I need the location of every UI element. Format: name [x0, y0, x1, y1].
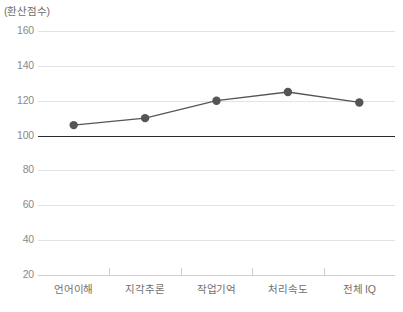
x-axis-line — [38, 275, 395, 276]
y-tick-label-60: 60 — [4, 199, 34, 210]
y-tick-label-140: 140 — [4, 60, 34, 71]
y-axis-unit-title: (환산점수) — [4, 3, 50, 18]
y-tick-label-80: 80 — [4, 164, 34, 175]
series-group — [38, 31, 395, 275]
data-point-3 — [284, 88, 292, 96]
data-point-1 — [141, 114, 149, 122]
x-category-label-1: 지각추론 — [125, 281, 164, 296]
y-tick-label-20: 20 — [4, 269, 34, 280]
x-category-label-4: 전체 IQ — [343, 281, 376, 296]
y-tick-label-120: 120 — [4, 95, 34, 106]
y-tick-label-100: 100 — [4, 130, 34, 141]
x-category-label-0: 언어이해 — [54, 281, 93, 296]
data-point-0 — [70, 121, 78, 129]
x-category-label-2: 작업기억 — [197, 281, 236, 296]
data-point-2 — [212, 97, 220, 105]
y-axis-tick-labels: 16014012010080604020 — [0, 31, 34, 275]
y-tick-label-160: 160 — [4, 25, 34, 36]
x-category-label-3: 처리속도 — [268, 281, 307, 296]
score-line-chart: (환산점수) 16014012010080604020 언어이해지각추론작업기억… — [0, 0, 403, 312]
y-tick-label-40: 40 — [4, 234, 34, 245]
data-point-4 — [355, 98, 363, 106]
series-markers — [70, 88, 364, 130]
